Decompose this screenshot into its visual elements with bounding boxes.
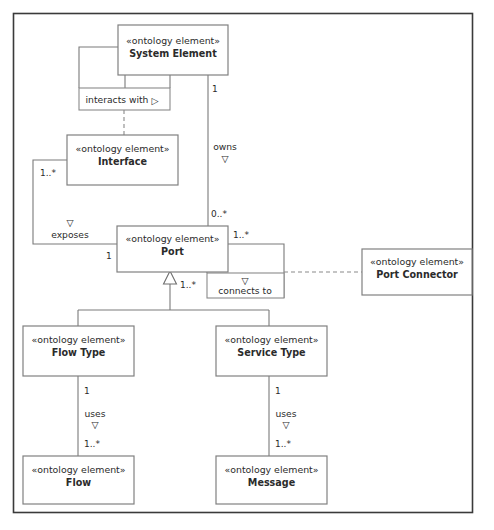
role-label-exposes: exposes <box>51 229 89 240</box>
uml-class-diagram: «ontology element» System Element «ontol… <box>0 0 494 530</box>
assoc-label-connects-to: connects to <box>218 285 272 296</box>
class-name-port-connector: Port Connector <box>376 269 458 280</box>
class-stereotype-port-connector: «ontology element» <box>370 256 464 267</box>
interacts-with-triangle-icon: ▷ <box>151 95 159 106</box>
multiplicity-port-connects: 1..* <box>233 230 249 240</box>
exposes-triangle-icon: ▽ <box>66 217 74 228</box>
class-name-system-element: System Element <box>129 48 217 59</box>
multiplicity-flow-type-uses: 1 <box>84 386 90 396</box>
multiplicity-service-type-uses: 1 <box>275 386 281 396</box>
role-label-uses-message: uses <box>275 408 296 419</box>
class-name-port: Port <box>161 246 184 257</box>
assoc-label-interacts-with: interacts with <box>86 94 149 105</box>
class-name-flow: Flow <box>66 477 91 488</box>
class-stereotype-interface: «ontology element» <box>75 143 169 154</box>
class-stereotype-port: «ontology element» <box>125 233 219 244</box>
class-stereotype-message: «ontology element» <box>224 464 318 475</box>
role-label-owns: owns <box>213 141 237 152</box>
class-stereotype-service-type: «ontology element» <box>224 334 318 345</box>
class-stereotype-flow: «ontology element» <box>31 464 125 475</box>
multiplicity-interface-exposes: 1..* <box>40 168 56 178</box>
class-name-interface: Interface <box>98 156 148 167</box>
multiplicity-message-uses: 1..* <box>275 439 291 449</box>
diagram-canvas: «ontology element» System Element «ontol… <box>0 0 494 530</box>
role-label-uses-flow: uses <box>84 408 105 419</box>
edge-interacts-with-bracket <box>79 47 118 88</box>
uses-flow-triangle-icon: ▽ <box>91 419 99 430</box>
class-name-service-type: Service Type <box>237 347 306 358</box>
class-name-flow-type: Flow Type <box>52 347 106 358</box>
uses-message-triangle-icon: ▽ <box>282 419 290 430</box>
class-stereotype-flow-type: «ontology element» <box>31 334 125 345</box>
multiplicity-flow-uses: 1..* <box>84 439 100 449</box>
multiplicity-port-exposes: 1 <box>106 251 112 261</box>
multiplicity-port-generalization: 1..* <box>180 280 196 290</box>
owns-triangle-icon: ▽ <box>221 153 229 164</box>
class-stereotype-system-element: «ontology element» <box>126 35 220 46</box>
multiplicity-system-element-owns: 1 <box>212 84 218 94</box>
generalization-triangle-icon <box>164 271 177 284</box>
class-name-message: Message <box>248 477 296 488</box>
multiplicity-port-owns: 0..* <box>211 209 227 219</box>
